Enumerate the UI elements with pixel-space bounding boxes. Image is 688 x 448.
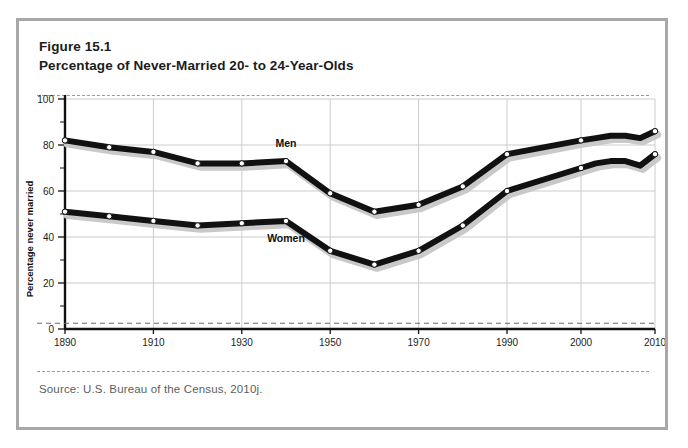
data-point-marker — [283, 158, 288, 163]
series-label-women: Women — [267, 232, 305, 244]
source-note: Source: U.S. Bureau of the Census, 2010j… — [39, 383, 263, 395]
figure-number: Figure 15.1 — [39, 37, 619, 56]
y-tick-label: 100 — [37, 94, 54, 105]
y-tick-label: 80 — [43, 140, 55, 151]
series-label-men: Men — [276, 137, 297, 149]
x-tick-label: 1890 — [54, 337, 77, 348]
x-tick-label: 1910 — [142, 337, 165, 348]
data-point-marker — [62, 138, 67, 143]
y-tick-label: 20 — [43, 278, 55, 289]
data-point-marker — [239, 221, 244, 226]
y-tick-label: 40 — [43, 232, 55, 243]
data-point-marker — [151, 218, 156, 223]
data-point-marker — [652, 129, 657, 134]
data-point-marker — [504, 152, 509, 157]
data-point-marker — [460, 184, 465, 189]
figure-title: Percentage of Never-Married 20- to 24-Ye… — [39, 56, 619, 75]
data-point-marker — [239, 161, 244, 166]
data-point-marker — [283, 218, 288, 223]
data-point-marker — [107, 214, 112, 219]
y-axis-tick-labels: 020406080100 — [37, 94, 54, 335]
divider-bottom — [37, 371, 649, 372]
data-point-marker — [652, 152, 657, 157]
data-point-marker — [460, 223, 465, 228]
x-tick-label: 1950 — [319, 337, 342, 348]
data-point-marker — [195, 223, 200, 228]
x-tick-label: 2010 — [644, 337, 665, 348]
data-point-marker — [504, 188, 509, 193]
y-tick-label: 0 — [48, 324, 54, 335]
data-point-marker — [578, 165, 583, 170]
data-point-marker — [328, 191, 333, 196]
data-point-marker — [195, 161, 200, 166]
x-tick-label: 2000 — [570, 337, 593, 348]
x-tick-label: 1970 — [407, 337, 430, 348]
x-axis-tick-labels: 18901910193019501970199020002010 — [54, 337, 665, 348]
data-point-marker — [107, 145, 112, 150]
data-point-marker — [578, 138, 583, 143]
data-point-marker — [372, 209, 377, 214]
gridlines — [65, 99, 655, 329]
data-point-marker — [416, 202, 421, 207]
data-point-marker — [151, 149, 156, 154]
data-point-marker — [416, 248, 421, 253]
line-chart: 020406080100 189019101930195019701990200… — [19, 89, 665, 369]
data-point-marker — [328, 248, 333, 253]
figure-heading: Figure 15.1 Percentage of Never-Married … — [39, 37, 619, 75]
y-axis-title: Percentage never married — [24, 180, 35, 297]
y-tick-label: 60 — [43, 186, 55, 197]
x-tick-label: 1990 — [496, 337, 519, 348]
figure-frame: Figure 15.1 Percentage of Never-Married … — [16, 18, 668, 430]
data-point-marker — [62, 209, 67, 214]
data-point-marker — [372, 262, 377, 267]
chart-plot-area: 020406080100 189019101930195019701990200… — [19, 89, 665, 369]
x-tick-label: 1930 — [231, 337, 254, 348]
